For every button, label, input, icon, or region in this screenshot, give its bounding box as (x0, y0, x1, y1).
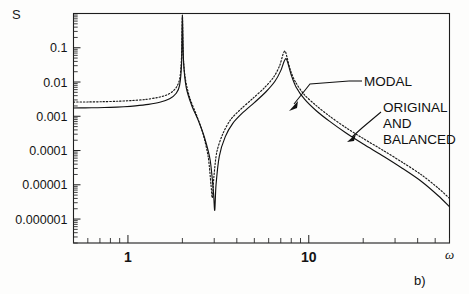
y-axis-tick-labels: 0.10.010.0010.00010.000010.000001 (15, 41, 67, 226)
y-axis-ticks (74, 14, 81, 244)
y-tick-label: 0.00001 (22, 178, 67, 192)
annotation-original-label-line3: BALANCED (383, 132, 456, 147)
y-tick-label: 0.0001 (29, 144, 67, 158)
annotation-original-and-balanced: ORIGINAL AND BALANCED (347, 100, 456, 147)
x-axis-tick-labels: 110 (124, 249, 317, 265)
y-axis-title: S (12, 7, 21, 22)
y-tick-label: 0.001 (36, 110, 67, 124)
annotation-modal-label: MODAL (364, 74, 413, 89)
y-tick-label: 0.000001 (15, 213, 67, 227)
x-tick-label: 1 (124, 249, 132, 265)
x-axis-title: ω (445, 247, 454, 262)
x-axis-ticks (74, 235, 450, 243)
y-tick-label: 0.01 (43, 76, 67, 90)
x-tick-label: 10 (301, 249, 317, 265)
original-pointer-line (352, 112, 381, 137)
y-tick-label: 0.1 (50, 41, 67, 55)
figure-panel: 0.10.010.0010.00010.000010.000001 110 S … (0, 0, 469, 294)
panel-label: b) (414, 273, 426, 288)
modal-arrowhead-icon (289, 101, 298, 111)
annotation-original-label-line2: AND (383, 116, 412, 131)
annotation-original-label-line1: ORIGINAL (383, 100, 448, 115)
log-log-frequency-response-chart: 0.10.010.0010.00010.000010.000001 110 S … (0, 0, 469, 294)
